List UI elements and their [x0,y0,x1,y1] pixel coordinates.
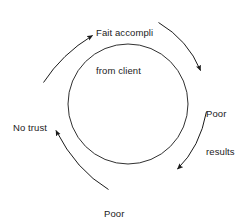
node-label-fait-accompli: Fait accompli from client [96,2,153,102]
arrow-no-trust-to-fait [44,36,93,83]
arrow-fait-to-results [159,23,201,71]
node-label-poor-results: Poor results [206,83,235,183]
node-label-line: Poor [104,208,176,221]
diagram-canvas: Fait accompli from client Poor results P… [0,0,247,224]
node-label-line: No trust [13,122,47,135]
arrow-reputation-to-no-trust [56,131,109,190]
node-label-line: Poor [206,108,235,121]
node-label-line: from client [96,65,153,78]
node-label-line: Fait accompli [96,27,153,40]
node-label-line: results [206,146,235,159]
node-label-no-trust: No trust [13,97,47,160]
arrow-results-to-reputation [178,112,207,170]
node-label-poor-reputation: Poor reputation and lack of credibility [104,183,176,224]
